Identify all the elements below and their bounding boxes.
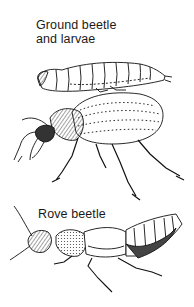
rove-beetle-icon <box>10 206 182 292</box>
ground-beetle-larva-icon <box>38 62 172 92</box>
beetle-illustration <box>0 0 194 307</box>
ground-beetle-adult-icon <box>14 93 184 200</box>
